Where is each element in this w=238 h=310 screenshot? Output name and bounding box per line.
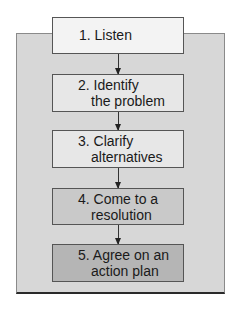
arrow-3-to-4 [118,168,119,188]
step-identify-the-problem: 2. Identify the problem [52,74,184,112]
step-label-line2: alternatives [91,149,163,166]
step-label-line1: 2. Identify [78,77,139,94]
step-label-line2: action plan [91,263,159,280]
step-listen: 1. Listen [52,17,184,54]
step-come-to-a-resolution: 4. Come to a resolution [52,188,184,225]
step-label-line1: 4. Come to a [78,191,158,208]
step-label: 1. Listen [79,27,132,44]
step-label-line2: the problem [91,93,165,110]
step-clarify-alternatives: 3. Clarify alternatives [52,130,184,168]
step-label-line1: 3. Clarify [78,133,133,150]
arrow-2-to-3 [118,112,119,130]
step-label-line1: 5. Agree on an [78,247,169,264]
step-label-line2: resolution [91,207,152,224]
arrow-1-to-2 [118,54,119,74]
step-agree-on-an-action-plan: 5. Agree on an action plan [52,244,184,282]
arrow-4-to-5 [118,225,119,244]
